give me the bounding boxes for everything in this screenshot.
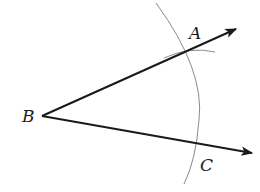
diagram-canvas: A B C: [0, 0, 260, 192]
label-C: C: [200, 155, 213, 175]
label-A: A: [187, 23, 201, 43]
ray-BC: [42, 116, 252, 153]
label-B: B: [21, 106, 35, 126]
ray-BA: [42, 29, 236, 116]
diagram-svg: A B C: [0, 0, 260, 192]
